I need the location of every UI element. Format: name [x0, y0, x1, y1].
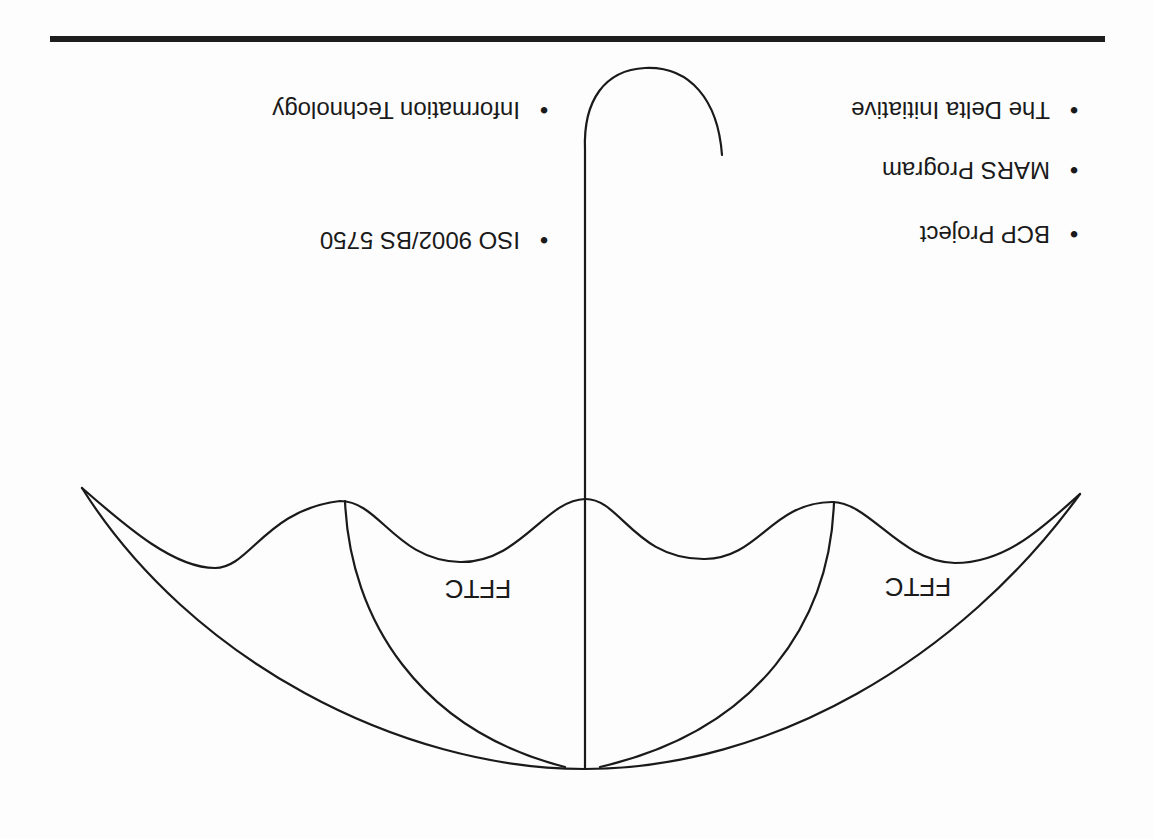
title-rule [50, 36, 1105, 42]
umbrella-canopy-outer [82, 488, 1080, 769]
bullet-icon: • [540, 97, 548, 124]
bullet-text: MARS Program [882, 157, 1050, 184]
slide: FFTC FFTC • The Delta Initiative • MARS … [0, 0, 1154, 839]
bullet-icon: • [1070, 157, 1078, 184]
panel-label-fftc-left: FFTC [445, 574, 511, 604]
bullet-item-information-technology: • Information Technology [272, 97, 548, 124]
bullet-text: BCP Project [919, 221, 1050, 248]
bullet-icon: • [1070, 221, 1078, 248]
bullet-text: The Delta Initiative [851, 97, 1050, 124]
bullet-icon: • [1070, 97, 1078, 124]
bullet-item-mars-program: • MARS Program [882, 157, 1078, 184]
bullet-item-bcp-project: • BCP Project [919, 221, 1078, 248]
bullet-item-delta-initiative: • The Delta Initiative [851, 97, 1078, 124]
bullet-item-iso-9002: • ISO 9002/BS 5750 [320, 227, 548, 254]
panel-label-fftc-right: FFTC [885, 572, 951, 602]
umbrella-rib-right [600, 502, 834, 767]
umbrella-diagram: FFTC FFTC • The Delta Initiative • MARS … [0, 0, 1154, 839]
bullet-text: Information Technology [272, 97, 520, 124]
bullet-icon: • [540, 227, 548, 254]
umbrella-handle-hook [585, 68, 722, 155]
umbrella-canopy-scallops [82, 488, 1080, 568]
bullet-text: ISO 9002/BS 5750 [320, 227, 520, 254]
